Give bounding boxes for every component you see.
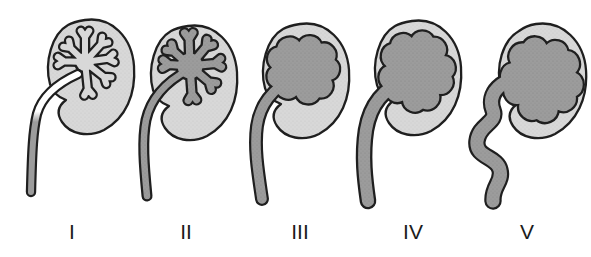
kidney-grade-II-illustration <box>144 26 237 196</box>
kidney-grade-V-illustration <box>477 24 586 201</box>
kidney-grade-IV-illustration <box>364 21 461 201</box>
figure-stage: I II III IV V <box>0 0 591 257</box>
kidney-grade-I-illustration <box>31 20 134 192</box>
grade-label-IV: IV <box>403 219 423 245</box>
grade-label-I: I <box>69 219 75 245</box>
grade-label-V: V <box>520 219 534 245</box>
grade-label-II: II <box>180 219 192 245</box>
kidney-grade-III-illustration <box>256 24 349 199</box>
grade-label-III: III <box>291 219 309 245</box>
